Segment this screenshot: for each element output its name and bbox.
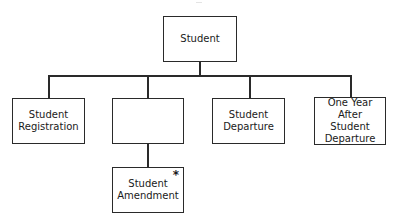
faint-mark — [196, 2, 202, 3]
asterisk-marker: * — [173, 169, 179, 181]
connector-sub-child — [147, 143, 149, 168]
node-student-departure: Student Departure — [212, 98, 285, 144]
connector-child-1 — [48, 75, 50, 98]
node-label: One Year After Student Departure — [315, 97, 385, 145]
node-label: Student Departure — [223, 109, 274, 133]
node-student-amendment: Student Amendment * — [112, 167, 184, 213]
connector-child-3 — [249, 75, 251, 98]
connector-child-4 — [350, 75, 352, 97]
connector-root-stem — [199, 61, 201, 76]
node-label: Student — [180, 33, 219, 45]
node-one-year-after-departure: One Year After Student Departure — [314, 97, 386, 145]
node-label: Student Amendment — [117, 178, 179, 202]
node-empty — [112, 98, 184, 144]
node-student-root: Student — [163, 16, 237, 62]
node-student-registration: Student Registration — [12, 98, 85, 144]
node-label: Student Registration — [18, 109, 78, 133]
connector-child-2 — [147, 75, 149, 98]
connector-horizontal-bar — [48, 75, 351, 77]
